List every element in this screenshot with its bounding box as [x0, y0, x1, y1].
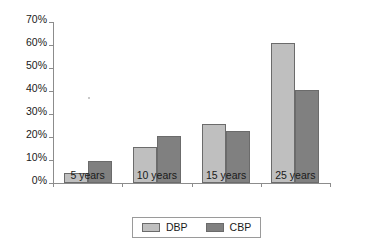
y-axis-tick-label: 40%: [26, 83, 47, 94]
x-axis-tick-mark: [53, 183, 54, 187]
legend-entry-cbp: CBP: [206, 222, 252, 233]
y-axis-tick-mark: [49, 114, 53, 115]
y-axis-tick-mark: [49, 91, 53, 92]
y-axis-tick-label: 70%: [26, 14, 47, 25]
y-axis-tick-label: 30%: [26, 106, 47, 117]
y-axis-tick-mark: [49, 137, 53, 138]
legend-label-dbp: DBP: [166, 222, 188, 233]
x-axis-label-5-years: 5 years: [53, 170, 122, 181]
x-axis-label-25-years: 25 years: [261, 170, 330, 181]
y-axis-tick-label: 60%: [26, 37, 47, 48]
legend-swatch-cbp: [206, 223, 224, 232]
x-axis-tick-mark: [192, 183, 193, 187]
y-axis-tick-label: 10%: [26, 152, 47, 163]
y-axis-tick-label: 0%: [32, 175, 47, 186]
y-axis-tick-label: 50%: [26, 60, 47, 71]
bar-chart-figure: 0%10%20%30%40%50%60%70% 5 years10 years1…: [0, 0, 391, 252]
x-axis-tick-mark: [330, 183, 331, 187]
x-axis-label-10-years: 10 years: [122, 170, 191, 181]
y-axis-tick-label: 20%: [26, 129, 47, 140]
y-axis-line: [53, 22, 54, 183]
legend-swatch-dbp: [142, 223, 160, 232]
scan-artifact-speck: [88, 97, 90, 99]
y-axis-tick-mark: [49, 160, 53, 161]
y-axis-tick-mark: [49, 68, 53, 69]
y-axis-tick-mark: [49, 22, 53, 23]
y-axis-tick-mark: [49, 45, 53, 46]
x-axis-tick-mark: [261, 183, 262, 187]
legend-entry-dbp: DBP: [142, 222, 188, 233]
x-axis-label-15-years: 15 years: [192, 170, 261, 181]
x-axis-tick-mark: [122, 183, 123, 187]
bar-dbp-25-years: [271, 43, 295, 183]
plot-area: 0%10%20%30%40%50%60%70%: [53, 22, 330, 183]
chart-legend: DBPCBP: [132, 217, 261, 238]
legend-label-cbp: CBP: [230, 222, 252, 233]
